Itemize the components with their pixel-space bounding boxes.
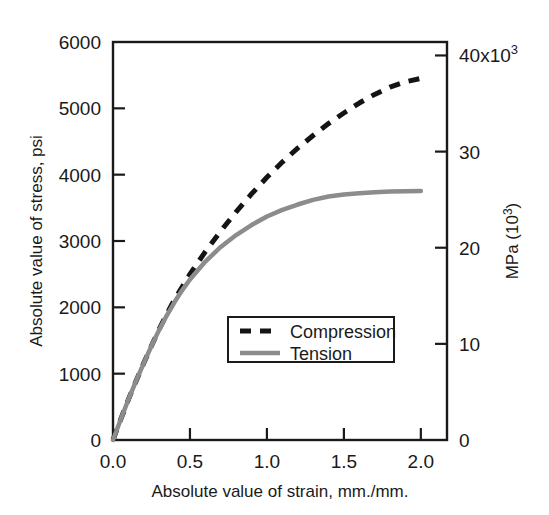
bottom-tick-label: 1.5 bbox=[331, 451, 357, 472]
plot-frame bbox=[113, 42, 447, 440]
left-axis-tick-labels: 0100020003000400050006000 bbox=[59, 32, 101, 451]
y2-axis-title-tail: ) bbox=[503, 203, 522, 209]
right-tick-label: 40x103 bbox=[459, 42, 518, 66]
series-line-compression bbox=[113, 78, 421, 440]
stress-strain-chart-figure: 0100020003000400050006000 010203040x103 … bbox=[0, 0, 549, 515]
right-tick-label: 0 bbox=[459, 430, 470, 451]
right-tick-label: 10 bbox=[459, 334, 480, 355]
data-series-group bbox=[113, 78, 421, 440]
bottom-tick-label: 2.0 bbox=[408, 451, 434, 472]
bottom-tick-label: 0.0 bbox=[100, 451, 126, 472]
left-tick-label: 0 bbox=[90, 430, 101, 451]
legend-label-compression: Compression bbox=[290, 322, 396, 342]
left-tick-label: 3000 bbox=[59, 231, 101, 252]
bottom-tick-label: 0.5 bbox=[177, 451, 203, 472]
bottom-axis-tick-labels: 0.00.51.01.52.0 bbox=[100, 451, 434, 472]
chart-legend: CompressionTension bbox=[228, 317, 396, 364]
legend-label-tension: Tension bbox=[290, 344, 352, 364]
y2-axis-title-main: MPa (10 bbox=[503, 215, 522, 279]
right-tick-label: 20 bbox=[459, 238, 480, 259]
left-tick-label: 2000 bbox=[59, 297, 101, 318]
x-axis-title: Absolute value of strain, mm./mm. bbox=[152, 482, 409, 501]
left-tick-label: 4000 bbox=[59, 165, 101, 186]
left-tick-label: 6000 bbox=[59, 32, 101, 53]
left-tick-label: 5000 bbox=[59, 98, 101, 119]
right-tick-label: 30 bbox=[459, 142, 480, 163]
right-axis-ticks bbox=[435, 55, 447, 343]
y-axis-title: Absolute value of stress, psi bbox=[27, 135, 46, 347]
series-line-tension bbox=[113, 191, 421, 440]
left-tick-label: 1000 bbox=[59, 364, 101, 385]
chart-canvas: 0100020003000400050006000 010203040x103 … bbox=[0, 0, 549, 515]
bottom-axis-ticks bbox=[190, 428, 421, 440]
svg-text:MPa (103): MPa (103) bbox=[501, 203, 522, 280]
bottom-tick-label: 1.0 bbox=[254, 451, 280, 472]
y2-axis-title: MPa (103) bbox=[501, 203, 522, 280]
left-axis-ticks bbox=[113, 108, 125, 373]
